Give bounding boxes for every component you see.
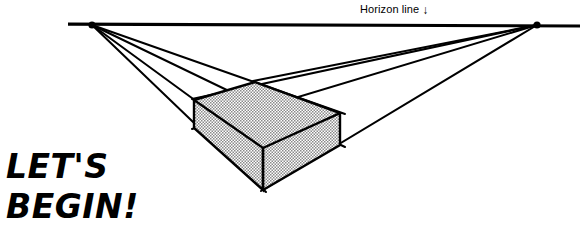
rvp-to-top-back-guide xyxy=(253,25,537,81)
perspective-illustration: Horizon line↓ LET'S BEGIN! xyxy=(0,0,580,233)
callout-line-2: BEGIN! xyxy=(6,187,186,227)
horizon-line-label-text: Horizon line xyxy=(360,3,419,15)
box-group xyxy=(194,82,340,190)
left-vanishing-point-dot xyxy=(88,21,95,28)
horizon-line-label: Horizon line↓ xyxy=(360,2,428,16)
horizon-line xyxy=(68,24,580,26)
arrow-down-icon: ↓ xyxy=(422,4,428,16)
callout-line-1: LET'S xyxy=(6,147,186,187)
horizon-line-group xyxy=(68,21,580,28)
lvp-to-top-left-guide xyxy=(92,25,196,101)
right-vanishing-point-dot xyxy=(533,21,540,28)
lets-begin-callout: LET'S BEGIN! xyxy=(6,147,186,227)
